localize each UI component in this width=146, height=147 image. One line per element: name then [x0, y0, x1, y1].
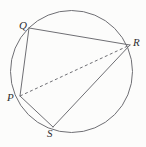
vertex-label-R: R: [133, 37, 140, 48]
segment-SR: [53, 45, 130, 127]
vertex-label-S: S: [47, 128, 53, 139]
segment-PR-diagonal-dashed: [20, 45, 130, 96]
geometry-figure: Q R P S: [0, 0, 146, 147]
vertex-label-P: P: [7, 92, 14, 103]
vertex-label-Q: Q: [19, 20, 27, 31]
segment-QR: [29, 28, 130, 45]
segment-QP: [20, 28, 29, 96]
